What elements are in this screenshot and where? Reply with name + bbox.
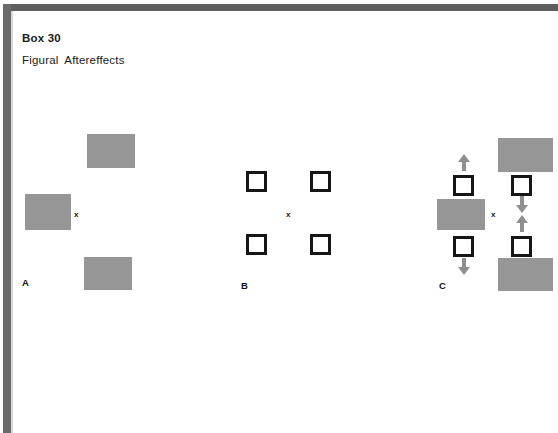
displacement-arrow-left-top-icon [457, 154, 471, 171]
displacement-arrow-left-bottom-icon [457, 258, 471, 275]
displacement-arrow-right-top-icon [515, 196, 529, 213]
panel-c: xC [0, 0, 558, 433]
fixation-mark-c: x [491, 211, 495, 219]
displaced-square-right-bottom [511, 236, 532, 257]
panel-label-c: C [439, 281, 446, 291]
displaced-square-right-top [511, 175, 532, 196]
inducing-rect-left-middle [437, 199, 485, 230]
figure-root: Box 30 Figural Aftereffects xAxBxC [0, 0, 558, 433]
inducing-rect-right-bottom [498, 258, 553, 291]
displaced-square-left-top [453, 175, 474, 196]
displacement-arrow-right-bottom-icon [515, 215, 529, 232]
displaced-square-left-bottom [453, 236, 474, 257]
inducing-rect-right-top [498, 138, 553, 172]
